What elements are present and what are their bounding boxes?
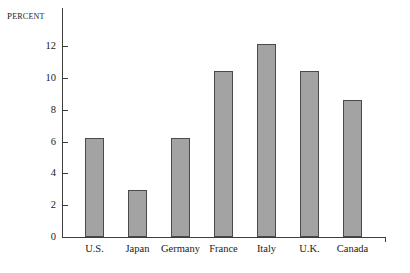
bars-layer: U.S.JapanGermanyFranceItalyU.K.Canada: [0, 0, 410, 273]
bar: [343, 100, 362, 237]
bar: [128, 190, 147, 237]
bar-chart-figure: Percent 024681012 U.S.JapanGermanyFrance…: [0, 0, 410, 273]
bar: [300, 71, 319, 237]
bar: [85, 138, 104, 237]
bar: [257, 44, 276, 237]
bar: [214, 71, 233, 237]
x-axis-category-label: Canada: [318, 243, 388, 254]
bar: [171, 138, 190, 237]
